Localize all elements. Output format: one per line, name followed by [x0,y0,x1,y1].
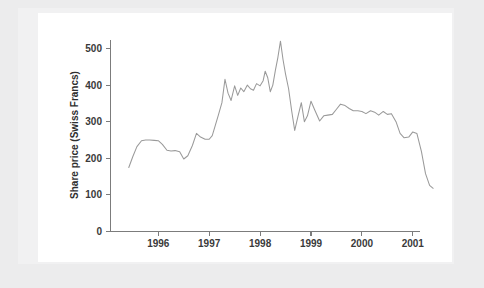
y-tick-label-100: 100 [85,189,102,200]
line-chart: 500 400 300 200 100 0 1996 1997 1998 199… [0,0,484,288]
series-line-share-price [129,41,433,188]
x-tick-label-2000: 2000 [351,238,374,249]
y-tick-label-0: 0 [96,226,102,237]
x-tick-label-1999: 1999 [300,238,323,249]
y-tick-label-500: 500 [85,43,102,54]
x-tick-marks [158,232,412,237]
y-tick-label-300: 300 [85,116,102,127]
y-tick-marks [106,49,111,232]
y-tick-label-200: 200 [85,153,102,164]
x-tick-label-1996: 1996 [147,238,170,249]
figure-root: 500 400 300 200 100 0 1996 1997 1998 199… [0,0,484,288]
x-tick-label-1998: 1998 [249,238,272,249]
y-axis-title: Share price (Swiss Francs) [69,71,80,199]
y-tick-label-400: 400 [85,80,102,91]
x-tick-label-2001: 2001 [402,238,425,249]
x-tick-label-1997: 1997 [198,238,221,249]
